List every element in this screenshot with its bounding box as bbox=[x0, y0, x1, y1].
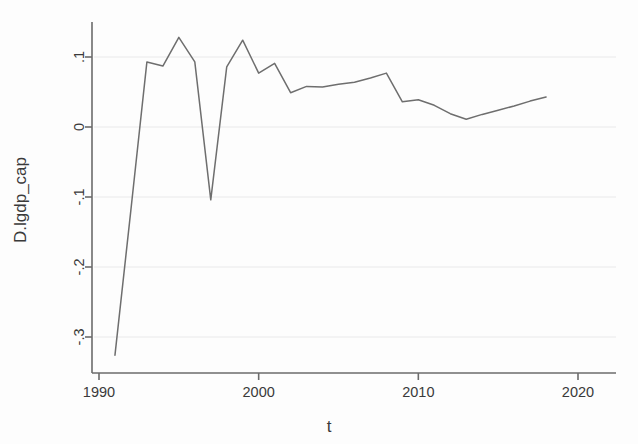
line-chart-canvas: 1990200020102020 -.3-.2-.10.1 t D.lgdp_c… bbox=[0, 0, 638, 444]
x-axis-title: t bbox=[327, 417, 332, 436]
y-tick-label: -.3 bbox=[71, 329, 87, 346]
x-tick-label: 1990 bbox=[83, 384, 115, 400]
series-line-dlgdpcap bbox=[115, 37, 546, 355]
chart-figure: 1990200020102020 -.3-.2-.10.1 t D.lgdp_c… bbox=[0, 0, 638, 444]
x-tick-labels: 1990200020102020 bbox=[83, 384, 594, 400]
y-axis-title: D.lgdp_cap bbox=[11, 157, 30, 243]
tick-marks bbox=[85, 57, 578, 380]
y-tick-label: -.2 bbox=[71, 259, 87, 276]
y-tick-label: 0 bbox=[71, 123, 87, 131]
x-tick-label: 2020 bbox=[562, 384, 594, 400]
y-tick-label: -.1 bbox=[71, 189, 87, 206]
y-tick-labels: -.3-.2-.10.1 bbox=[71, 51, 87, 346]
y-tick-label: .1 bbox=[71, 51, 87, 63]
x-tick-label: 2000 bbox=[243, 384, 275, 400]
x-tick-label: 2010 bbox=[402, 384, 434, 400]
